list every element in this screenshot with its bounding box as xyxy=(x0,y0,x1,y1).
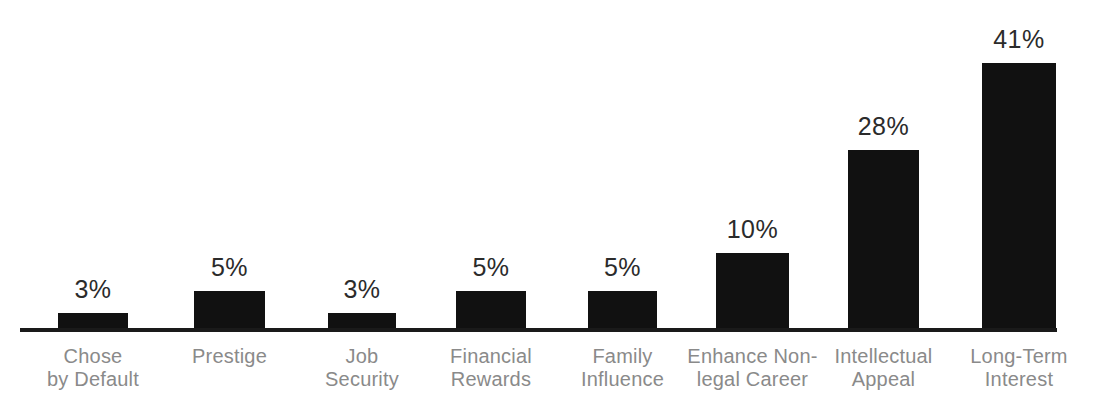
category-label-prestige: Prestige xyxy=(154,345,305,368)
plot-area: 3% 5% 3% 5% 5% 10% 28% 41% Chose by Defa… xyxy=(0,0,1117,416)
category-label-enhance-nonlegal-career: Enhance Non- legal Career xyxy=(676,345,829,391)
category-label-chose-by-default: Chose by Default xyxy=(18,345,168,391)
value-label-job-security: 3% xyxy=(308,277,416,302)
bar-family-influence[interactable] xyxy=(588,291,657,330)
value-label-chose-by-default: 3% xyxy=(38,277,148,302)
bar-intellectual-appeal[interactable] xyxy=(848,150,919,330)
category-label-intellectual-appeal: Intellectual Appeal xyxy=(808,345,959,391)
category-label-family-influence: Family Influence xyxy=(548,345,697,391)
category-label-financial-rewards: Financial Rewards xyxy=(416,345,566,391)
value-label-long-term-interest: 41% xyxy=(962,27,1076,52)
value-label-financial-rewards: 5% xyxy=(436,255,546,280)
category-label-long-term-interest: Long-Term Interest xyxy=(942,345,1096,391)
bar-long-term-interest[interactable] xyxy=(982,63,1056,330)
bar-enhance-nonlegal-career[interactable] xyxy=(716,253,789,330)
value-label-prestige: 5% xyxy=(174,255,285,280)
value-label-family-influence: 5% xyxy=(568,255,677,280)
value-label-enhance-nonlegal-career: 10% xyxy=(696,217,809,242)
bar-prestige[interactable] xyxy=(194,291,265,330)
category-label-job-security: Job Security xyxy=(288,345,436,391)
x-axis-line xyxy=(20,328,1057,332)
bar-chart: 3% 5% 3% 5% 5% 10% 28% 41% Chose by Defa… xyxy=(0,0,1117,416)
value-label-intellectual-appeal: 28% xyxy=(828,114,939,139)
bar-financial-rewards[interactable] xyxy=(456,291,526,330)
